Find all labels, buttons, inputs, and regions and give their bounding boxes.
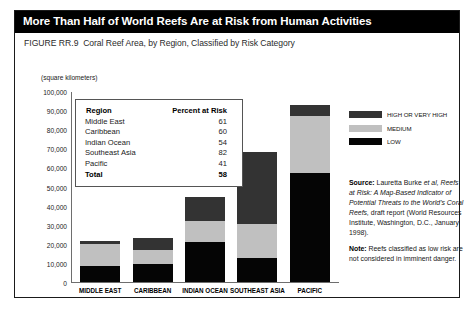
legend-item: MEDIUM bbox=[349, 125, 447, 132]
source-author: Lauretta Burke bbox=[375, 179, 424, 186]
cell-percent: 61 bbox=[152, 117, 233, 128]
legend-label: HIGH OR VERY HIGH bbox=[387, 111, 447, 118]
figure-title: More Than Half of World Reefs Are at Ris… bbox=[15, 11, 459, 33]
bar-segment-medium bbox=[80, 244, 120, 266]
note-text: Reefs classified as low risk are not con… bbox=[349, 245, 463, 262]
y-axis-tick-label: 90,000 bbox=[47, 108, 67, 115]
bar-indian-ocean[interactable]: INDIAN OCEAN bbox=[185, 197, 225, 282]
cell-region: Middle East bbox=[85, 117, 152, 128]
bar-segment-high bbox=[185, 197, 225, 221]
cell-region: Southeast Asia bbox=[85, 148, 152, 159]
figure-subtitle: FIGURE RR.9 Coral Reef Area, by Region, … bbox=[15, 33, 459, 48]
bar-southeast-asia[interactable]: SOUTHEAST ASIA bbox=[237, 152, 277, 282]
percent-at-risk-table: Region Percent at Risk Middle East61Cari… bbox=[85, 105, 233, 180]
bar-segment-high bbox=[290, 105, 330, 116]
cell-total-percent: 58 bbox=[152, 169, 233, 180]
bar-caribbean[interactable]: CARIBBEAN bbox=[133, 238, 173, 282]
table-row: Indian Ocean54 bbox=[85, 138, 233, 149]
chart-legend: HIGH OR VERY HIGHMEDIUMLOW bbox=[349, 111, 447, 152]
table-row: Middle East61 bbox=[85, 117, 233, 128]
y-axis-tick-label: 70,000 bbox=[47, 146, 67, 153]
table-row: Caribbean60 bbox=[85, 127, 233, 138]
y-axis-units-label: (square kilometers) bbox=[41, 74, 97, 81]
figure-subtitle-text: Coral Reef Area, by Region, Classified b… bbox=[83, 38, 295, 48]
table-row-total: Total58 bbox=[85, 169, 233, 180]
bar-segment-medium bbox=[290, 116, 330, 173]
cell-percent: 82 bbox=[152, 148, 233, 159]
table-row: Pacific41 bbox=[85, 159, 233, 170]
y-axis-tick-label: 20,000 bbox=[47, 241, 67, 248]
y-axis-tick-label: 40,000 bbox=[47, 203, 67, 210]
legend-swatch bbox=[349, 111, 382, 118]
y-axis-tick-label: 0 bbox=[63, 280, 67, 287]
figure-notes: Source: Lauretta Burke et al, Reefs at R… bbox=[349, 178, 465, 270]
bar-pacific[interactable]: PACIFIC bbox=[290, 105, 330, 282]
y-axis-tick-label: 60,000 bbox=[47, 165, 67, 172]
column-header-percent: Percent at Risk bbox=[152, 105, 233, 117]
figure-panel: More Than Half of World Reefs Are at Ris… bbox=[14, 10, 460, 298]
legend-label: MEDIUM bbox=[387, 125, 411, 132]
bar-segment-low bbox=[185, 242, 225, 282]
table-header-row: Region Percent at Risk bbox=[85, 105, 233, 117]
bar-segment-medium bbox=[133, 250, 173, 265]
x-axis-label: PACIFIC bbox=[267, 287, 353, 294]
cell-percent: 41 bbox=[152, 159, 233, 170]
y-axis-tick-label: 10,000 bbox=[47, 260, 67, 267]
table-body: Middle East61Caribbean60Indian Ocean54So… bbox=[85, 117, 233, 181]
cell-percent: 54 bbox=[152, 138, 233, 149]
y-axis-line bbox=[71, 92, 72, 283]
legend-swatch bbox=[349, 125, 382, 132]
y-axis-tick-label: 50,000 bbox=[47, 184, 67, 191]
cell-region: Indian Ocean bbox=[85, 138, 152, 149]
y-axis-tick-label: 30,000 bbox=[47, 222, 67, 229]
cell-percent: 60 bbox=[152, 127, 233, 138]
bar-segment-low bbox=[133, 264, 173, 282]
bar-segment-low bbox=[80, 266, 120, 282]
bar-segment-low bbox=[290, 173, 330, 282]
x-axis-line bbox=[71, 282, 339, 283]
cell-total-label: Total bbox=[85, 169, 152, 180]
note-label: Note: bbox=[349, 245, 367, 252]
legend-item: LOW bbox=[349, 138, 447, 145]
column-header-region: Region bbox=[85, 105, 152, 117]
y-axis-tick-label: 100,000 bbox=[43, 89, 67, 96]
explanatory-note: Note: Reefs classified as low risk are n… bbox=[349, 244, 465, 264]
bar-segment-low bbox=[237, 258, 277, 282]
source-etal: et al, bbox=[424, 179, 439, 186]
cell-region: Caribbean bbox=[85, 127, 152, 138]
bar-segment-high bbox=[133, 238, 173, 250]
source-note: Source: Lauretta Burke et al, Reefs at R… bbox=[349, 178, 465, 238]
cell-region: Pacific bbox=[85, 159, 152, 170]
bar-middle-east[interactable]: MIDDLE EAST bbox=[80, 241, 120, 282]
source-label: Source: bbox=[349, 179, 375, 186]
y-axis-tick-label: 80,000 bbox=[47, 127, 67, 134]
bar-segment-medium bbox=[237, 224, 277, 258]
bar-segment-high bbox=[237, 152, 277, 224]
inset-data-table: Region Percent at Risk Middle East61Cari… bbox=[75, 99, 243, 187]
legend-item: HIGH OR VERY HIGH bbox=[349, 111, 447, 118]
legend-label: LOW bbox=[387, 138, 401, 145]
table-row: Southeast Asia82 bbox=[85, 148, 233, 159]
bar-segment-medium bbox=[185, 221, 225, 243]
figure-number: FIGURE RR.9 bbox=[24, 38, 78, 48]
legend-swatch bbox=[349, 138, 382, 145]
